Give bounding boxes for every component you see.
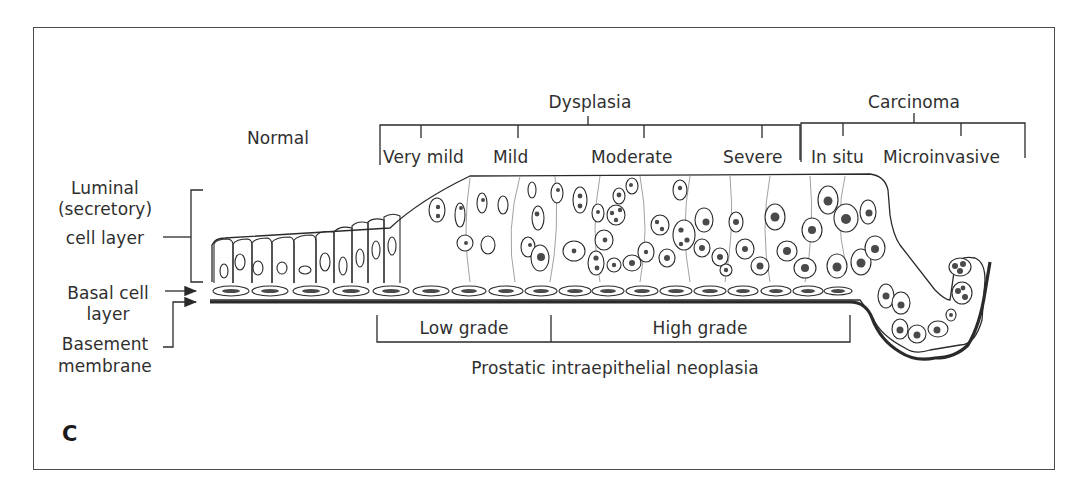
dysplasia-bracket xyxy=(380,116,800,165)
carcinoma-bracket xyxy=(801,113,1025,162)
epithelium-illustration xyxy=(0,0,1083,499)
nuclei xyxy=(436,183,968,339)
dysplastic-cells xyxy=(429,178,972,343)
normal-luminal-cells xyxy=(214,214,400,283)
layer-arrows xyxy=(163,291,196,347)
pin-bracket xyxy=(377,315,850,342)
luminal-bracket xyxy=(163,190,203,282)
basal-cells xyxy=(213,286,852,296)
basement-membrane xyxy=(210,262,990,359)
